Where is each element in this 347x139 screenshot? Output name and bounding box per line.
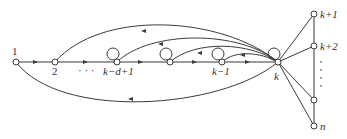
label-2: 2 (52, 65, 58, 77)
horizontal-ellipsis: · · · (78, 64, 95, 76)
label-kd1: k−d+1 (103, 65, 134, 77)
node-n (311, 123, 317, 129)
arrow-arc-k-mid (197, 51, 202, 55)
graph-diagram: 1 2 · · · k−d+1 k−1 k k+1 k+2 n (0, 0, 347, 139)
arrow-1-2 (33, 60, 38, 64)
arrow-mid-km1 (192, 60, 197, 64)
label-k: k (274, 70, 280, 82)
node-kp2 (311, 43, 317, 49)
vertical-ellipsis (320, 61, 322, 87)
node-1 (13, 59, 19, 65)
label-kp2: k+2 (320, 40, 338, 52)
label-1: 1 (12, 45, 18, 57)
self-loop-km1 (212, 48, 224, 60)
arrow-arc-k-kd1 (158, 42, 163, 46)
node-k (275, 59, 281, 65)
self-loop-k (268, 48, 280, 60)
node-kp1 (311, 11, 317, 17)
self-loop-kd1 (107, 48, 119, 60)
arrow-kd1-mid (138, 60, 143, 64)
edge-k-kp1 (278, 14, 314, 62)
arrow-arc-k-1 (128, 97, 133, 101)
label-km1: k−1 (212, 65, 230, 77)
arrow-arc-k-2 (141, 29, 146, 33)
self-loop-mid (160, 48, 172, 60)
node-nm1 (311, 97, 317, 103)
label-kp1: k+1 (320, 8, 338, 20)
arrow-km1-k (245, 60, 250, 64)
arc-k-kd1 (117, 38, 278, 62)
node-mid (167, 59, 173, 65)
label-n: n (320, 120, 326, 132)
